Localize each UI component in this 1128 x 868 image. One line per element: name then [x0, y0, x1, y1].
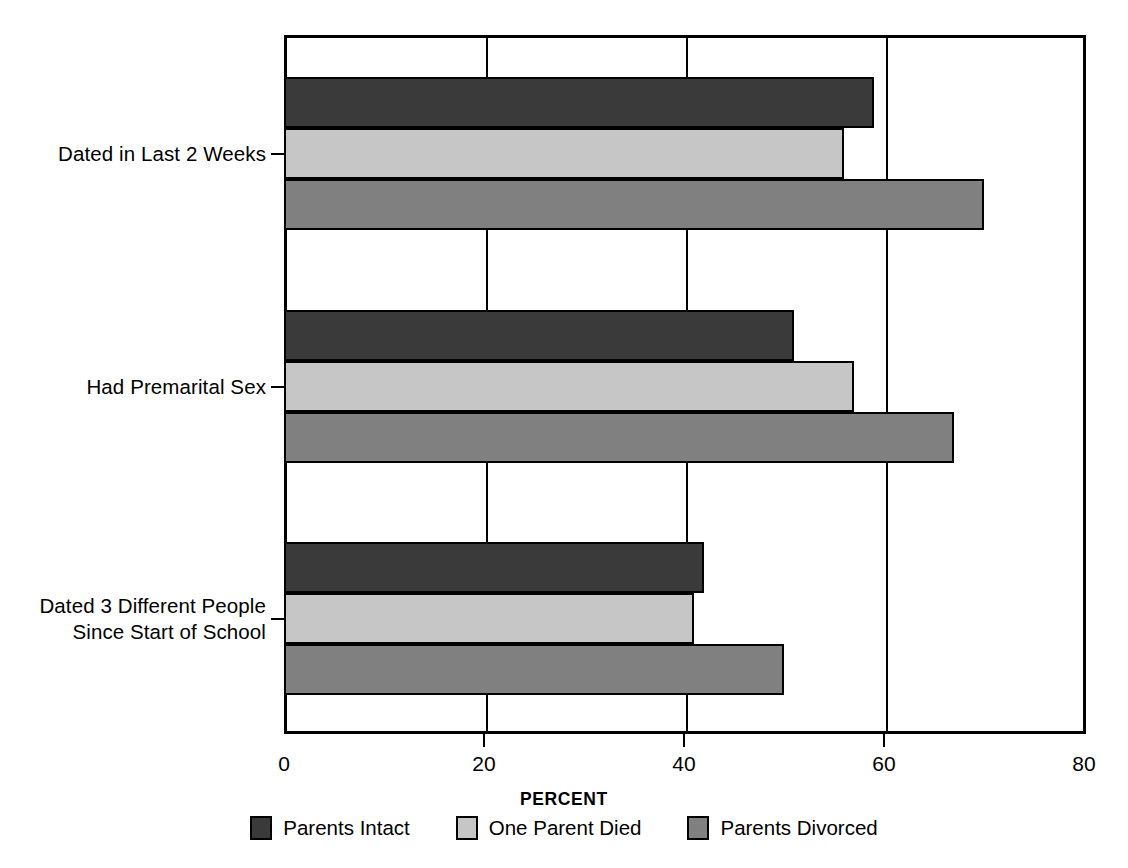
y-axis-category-label: Dated in Last 2 Weeks [58, 141, 266, 167]
bar [284, 542, 704, 593]
bar [284, 128, 844, 179]
x-axis-tick-20 [483, 734, 485, 747]
legend: Parents IntactOne Parent DiedParents Div… [0, 816, 1128, 840]
legend-label: Parents Divorced [720, 816, 877, 840]
legend-swatch-icon [687, 816, 709, 840]
bar [284, 179, 984, 230]
y-axis-category-label: Had Premarital Sex [86, 374, 266, 400]
x-axis-tick-40 [683, 734, 685, 747]
bar [284, 593, 694, 644]
x-axis-title: PERCENT [0, 789, 1128, 810]
legend-item: Parents Divorced [687, 816, 877, 840]
legend-swatch-icon [456, 816, 478, 840]
legend-item: Parents Intact [250, 816, 409, 840]
y-axis-tick [271, 386, 284, 388]
x-axis-tick-60 [883, 734, 885, 747]
y-axis-tick [271, 153, 284, 155]
legend-label: One Parent Died [489, 816, 642, 840]
x-axis-tick-label: 40 [649, 752, 719, 776]
gridline-60 [886, 38, 888, 731]
x-axis-tick-label: 20 [449, 752, 519, 776]
x-axis-tick-label: 0 [249, 752, 319, 776]
bar [284, 412, 954, 463]
bar [284, 644, 784, 695]
y-axis-tick [271, 618, 284, 620]
legend-item: One Parent Died [456, 816, 642, 840]
legend-swatch-icon [250, 816, 272, 840]
bar-chart: Dated in Last 2 WeeksHad Premarital SexD… [0, 0, 1128, 868]
legend-label: Parents Intact [283, 816, 409, 840]
y-axis-category-label: Dated 3 Different People Since Start of … [39, 593, 266, 645]
y-axis-labels: Dated in Last 2 WeeksHad Premarital SexD… [0, 0, 266, 868]
x-axis-tick-label: 80 [1049, 752, 1119, 776]
bar [284, 361, 854, 412]
bar [284, 77, 874, 128]
x-axis-tick-label: 60 [849, 752, 919, 776]
bar [284, 310, 794, 361]
